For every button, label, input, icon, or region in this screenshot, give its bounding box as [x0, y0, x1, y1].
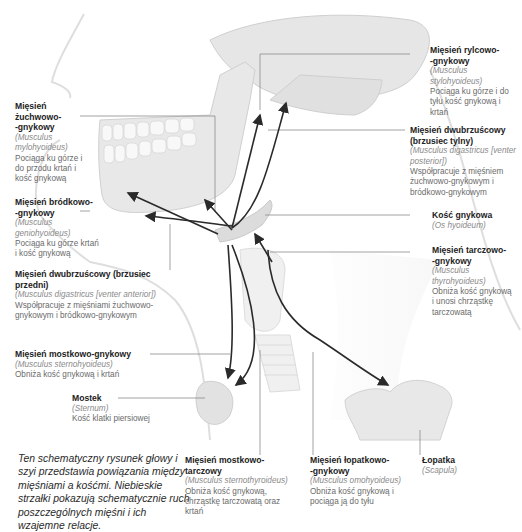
- label-digastric-posterior: Mięsień dwubrzuścowy (brzusiec tylny) (M…: [410, 125, 518, 198]
- label-title: Mięsień dwubrzuścowy (brzusiec przedni): [15, 269, 175, 290]
- label-desc: Pociąga ku górze i do tyłu kość gnykową …: [430, 87, 518, 118]
- label-desc: Współpracuje z mięśniem żuchwowo-gnykowy…: [410, 167, 518, 198]
- label-scapula: Łopatka (Scapula): [422, 455, 502, 476]
- label-thyrohyoid: Mięsień tarczowo- -gnykowy (Musculus thy…: [432, 245, 514, 318]
- label-latin: (Musculus omohyoideus): [310, 476, 415, 486]
- label-latin: (Sternum): [72, 404, 172, 414]
- label-desc: Obniża kość gnykową i pociąga ją do tyłu: [310, 487, 415, 508]
- label-mylohyoid: Mięsień żuchwowo- -gnykowy (Musculus myl…: [15, 101, 85, 185]
- label-desc: Obniża kość gnykową i krtań: [15, 370, 165, 380]
- label-latin: (Musculus mylohyoideus): [15, 133, 85, 154]
- label-sternothyroid: Mięsień mostkowo-tarczowy (Musculus ster…: [185, 455, 295, 518]
- label-latin: (Musculus geniohyoideus): [15, 218, 100, 239]
- label-title: Mięsień żuchwowo- -gnykowy: [15, 101, 85, 133]
- label-latin: (Musculus sternohyoideus): [15, 360, 165, 370]
- label-desc: Pociąga ku górze i do przodu krtań i koś…: [15, 154, 85, 185]
- label-latin: (Musculus sternothyroideus): [185, 476, 295, 486]
- label-title: Mięsień tarczowo- -gnykowy: [432, 245, 514, 266]
- label-desc: Pociąga ku górze krtań i kość gnykową: [15, 239, 100, 260]
- label-latin: (Os hyoideum): [432, 221, 520, 231]
- label-title: Mięsień łopatkowo- -gnykowy: [310, 455, 415, 476]
- label-desc: Współpracuje z mięśniami żuchwowo-gnykow…: [15, 301, 175, 322]
- label-stylohyoid: Mięsień rylcowo- -gnykowy (Musculus styl…: [430, 45, 518, 118]
- label-title: Kość gnykowa: [432, 210, 520, 221]
- label-title: Mięsień bródkowo- -gnykowy: [15, 197, 100, 218]
- sternum: [196, 381, 233, 424]
- label-hyoid-bone: Kość gnykowa (Os hyoideum): [432, 210, 520, 231]
- label-sternohyoid: Mięsień mostkowo-gnykowy (Musculus stern…: [15, 349, 165, 380]
- figure-caption: Ten schematyczny rysunek głowy i szyi pr…: [18, 452, 193, 532]
- label-latin: (Musculus digastricus [venter anterior]): [15, 290, 175, 300]
- label-digastric-anterior: Mięsień dwubrzuścowy (brzusiec przedni) …: [15, 269, 175, 321]
- label-title: Mięsień dwubrzuścowy (brzusiec tylny): [410, 125, 518, 146]
- label-title: Mięsień rylcowo- -gnykowy: [430, 45, 518, 66]
- label-latin: (Musculus stylohyoideus): [430, 66, 518, 87]
- label-title: Mięsień mostkowo-tarczowy: [185, 455, 295, 476]
- label-latin: (Musculus thyrohyoideus): [432, 266, 514, 287]
- label-latin: (Musculus digastricus [venter posterior]…: [410, 146, 518, 167]
- label-geniohyoid: Mięsień bródkowo- -gnykowy (Musculus gen…: [15, 197, 100, 260]
- label-omohyoid: Mięsień łopatkowo- -gnykowy (Musculus om…: [310, 455, 415, 507]
- label-desc: Obniża kość gnykową i unosi chrząstkę ta…: [432, 287, 514, 318]
- label-title: Mostek: [72, 393, 172, 404]
- label-title: Łopatka: [422, 455, 502, 466]
- label-desc: Obniża kość gnykową, chrząstkę tarczowat…: [185, 487, 295, 518]
- label-sternum: Mostek (Sternum) Kość klatki piersiowej: [72, 393, 172, 424]
- label-latin: (Scapula): [422, 466, 502, 476]
- label-title: Mięsień mostkowo-gnykowy: [15, 349, 165, 360]
- label-desc: Kość klatki piersiowej: [72, 414, 172, 424]
